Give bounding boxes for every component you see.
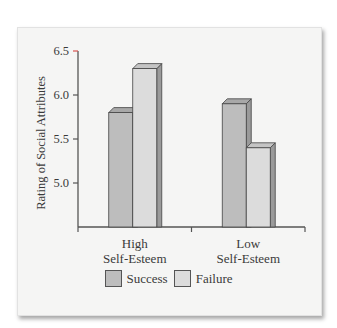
- bar-top: [246, 143, 275, 148]
- x-category-label: High: [122, 236, 149, 251]
- bar-front: [246, 148, 270, 227]
- y-tick-label: 6.0: [53, 88, 69, 102]
- legend-swatch-failure: [174, 270, 191, 287]
- y-tick-label: 5.5: [53, 132, 69, 146]
- bar-front: [109, 113, 133, 227]
- bar-top: [222, 99, 251, 104]
- bar-top: [133, 64, 162, 69]
- y-tick-label: 5.0: [53, 176, 69, 190]
- x-category-label: Self-Esteem: [103, 251, 167, 266]
- legend-item-success: Success: [105, 270, 168, 287]
- legend-swatch-success: [105, 270, 122, 287]
- y-axis-title: Rating of Social Attributes: [34, 76, 48, 210]
- legend-item-failure: Failure: [174, 270, 233, 287]
- y-tick-label: 6.5: [53, 44, 69, 58]
- bar-side: [270, 143, 275, 227]
- x-category-label: Low: [236, 236, 260, 251]
- legend-label-failure: Failure: [196, 271, 233, 287]
- bar-failure-0: [133, 64, 162, 227]
- legend: Success Failure: [0, 270, 337, 287]
- bar-front: [133, 69, 157, 227]
- bar-failure-1: [246, 143, 275, 227]
- bars: [109, 64, 276, 227]
- bar-side: [157, 64, 162, 227]
- legend-label-success: Success: [127, 271, 168, 287]
- x-category-label: Self-Esteem: [216, 251, 280, 266]
- bar-front: [222, 104, 246, 227]
